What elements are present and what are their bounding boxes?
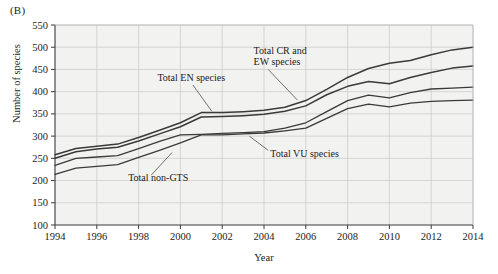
x-tick-label: 2012 [421,231,442,242]
y-tick-label: 350 [32,108,48,119]
x-tick-label: 1994 [45,231,67,242]
y-tick-label: 400 [32,86,48,97]
annotation-label: Total EN species [157,72,225,83]
y-tick-label: 500 [32,42,48,53]
x-tick-label: 1998 [128,231,149,242]
annotation-label: Total VU species [270,148,339,159]
annotation-label: Total non-GTS [128,172,188,183]
x-tick-label: 2002 [212,231,233,242]
y-tick-label: 150 [32,197,48,208]
y-axis-ticks: 100150200250300350400450500550 [32,20,55,231]
x-tick-label: 2006 [295,231,316,242]
y-tick-label: 200 [32,175,48,186]
y-tick-label: 100 [32,220,48,231]
x-tick-label: 1996 [86,231,107,242]
annotation-label: EW species [254,56,301,67]
y-tick-label: 250 [32,153,48,164]
x-tick-label: 2004 [254,231,276,242]
x-axis-ticks: 1994199619982000200220042006200820102012… [45,225,485,242]
annotation-label: Total CR and [254,45,307,56]
y-tick-label: 550 [32,20,48,31]
chart-plot: 100150200250300350400450500550 199419961… [0,0,498,274]
x-tick-label: 2008 [337,231,358,242]
y-tick-label: 300 [32,131,48,142]
y-tick-label: 450 [32,64,48,75]
x-tick-label: 2010 [379,231,400,242]
figure-panel-b: (B) Number of species Year 1001502002503… [0,0,498,274]
x-tick-label: 2000 [170,231,191,242]
x-tick-label: 2014 [463,231,485,242]
